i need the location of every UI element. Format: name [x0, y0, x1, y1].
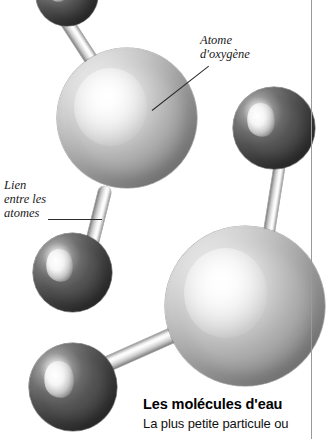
caption-body: La plus petite particule ou: [143, 416, 305, 432]
hydrogen-atom: [29, 343, 117, 431]
figure-water-molecules: Atome d'oxygèneLien entre les atomes Les…: [0, 0, 328, 439]
oxygen-atom: [165, 226, 325, 386]
hydrogen-atom: [36, 0, 98, 26]
column-divider: [311, 0, 312, 439]
hydrogen-atom: [233, 87, 315, 169]
callout-oxygen-atom: Atome d'oxygène: [200, 33, 250, 61]
callout-atom-bond: Lien entre les atomes: [4, 178, 46, 220]
caption-title: Les molécules d'eau: [143, 396, 305, 413]
caption-block: Les molécules d'eau La plus petite parti…: [143, 396, 305, 432]
hydrogen-atom: [33, 233, 112, 312]
leader-line-atom-bond: [48, 219, 102, 220]
oxygen-atom: [57, 48, 197, 188]
